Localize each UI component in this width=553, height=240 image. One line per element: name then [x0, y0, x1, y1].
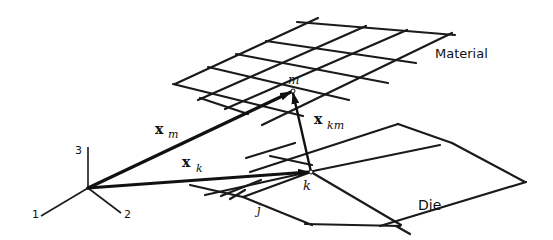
material-label: Material — [435, 46, 488, 61]
vector-x-m — [88, 92, 291, 188]
svg-text:k: k — [196, 162, 203, 175]
axis-2 — [88, 188, 121, 213]
axis-3-label: 3 — [75, 144, 82, 157]
diagram-canvas: 3 1 2 m k j x m x k x km Material Die — [0, 0, 553, 240]
vector-x-km-label: x km — [314, 111, 344, 132]
axis-1-label: 1 — [32, 208, 39, 221]
vector-x-k-label: x k — [182, 154, 203, 175]
contact-geometry-diagram: 3 1 2 m k j x m x k x km Material Die — [0, 0, 553, 240]
axis-1 — [41, 188, 88, 216]
svg-text:x: x — [182, 154, 191, 170]
svg-text:x: x — [155, 121, 164, 137]
node-k-label: k — [303, 178, 311, 193]
svg-text:m: m — [168, 128, 178, 141]
vector-x-m-label: x m — [155, 121, 178, 141]
svg-text:km: km — [327, 119, 344, 132]
node-m — [291, 89, 295, 93]
die-label: Die — [418, 197, 441, 213]
axis-2-label: 2 — [124, 208, 131, 221]
node-j-label: j — [254, 203, 261, 217]
material-grid — [173, 18, 455, 125]
coordinate-axes — [41, 147, 121, 216]
svg-text:x: x — [314, 111, 323, 127]
node-k — [309, 170, 313, 174]
node-m-label: m — [288, 73, 299, 87]
die-grid — [190, 124, 526, 234]
